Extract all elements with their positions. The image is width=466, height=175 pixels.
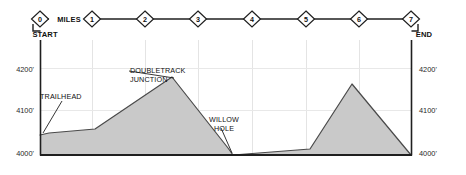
mile-marker-label-4: 4 [250, 15, 254, 24]
mile-marker-label-2: 2 [143, 15, 147, 24]
willow-hole-label-line2: HOLE [214, 124, 234, 133]
mile-marker-label-3: 3 [196, 15, 200, 24]
right-tick-4000: 4000' [419, 149, 437, 158]
start-label: START [32, 30, 58, 39]
doubletrack-junction-label-line2: JUNCTION [130, 75, 168, 84]
left-tick-4100: 4100' [16, 106, 34, 115]
mile-marker-label-7: 7 [409, 15, 413, 24]
mile-marker-label-6: 6 [357, 15, 361, 24]
left-tick-4200: 4200' [16, 65, 34, 74]
doubletrack-junction-label-line1: DOUBLETRACK [130, 66, 186, 75]
right-tick-4200: 4200' [419, 65, 437, 74]
elevation-profile-figure: 4200' 4100' 4000' 4200' 4100' 4000' [0, 0, 466, 175]
mile-marker-label-1: 1 [90, 15, 94, 24]
willow-hole-label-line1: WILLOW [209, 115, 239, 124]
miles-word-label: MILES [57, 15, 81, 24]
elevation-profile-svg: 4200' 4100' 4000' 4200' 4100' 4000' [0, 0, 466, 175]
end-label: END [416, 30, 433, 39]
right-tick-4100: 4100' [419, 106, 437, 115]
trailhead-label: TRAILHEAD [40, 92, 82, 101]
left-tick-4000: 4000' [16, 149, 34, 158]
mile-marker-label-0: 0 [38, 15, 42, 24]
mile-marker-label-5: 5 [304, 15, 308, 24]
